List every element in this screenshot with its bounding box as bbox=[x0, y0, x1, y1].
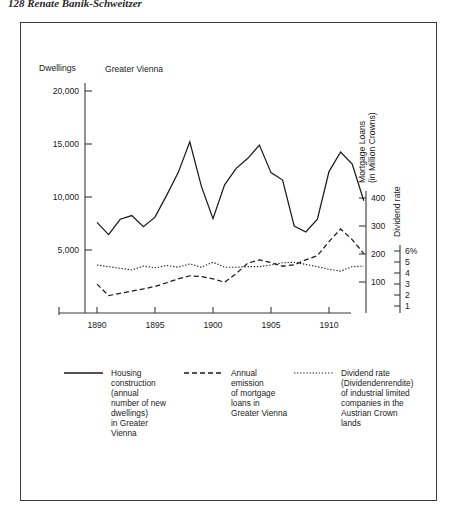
x-tick-label-1910: 1910 bbox=[319, 320, 338, 330]
legend-text-housing-line7: Vienna bbox=[111, 428, 137, 438]
dividend-tick-label-6: 6% bbox=[405, 246, 418, 256]
legend-item-housing-construction: Housing construction (annual number of n… bbox=[111, 368, 167, 438]
x-tick-label-1895: 1895 bbox=[145, 320, 164, 330]
dividend-tick-label-3: 3 bbox=[405, 279, 410, 289]
dividend-axis-ticks bbox=[394, 251, 400, 306]
running-head: 128 Renate Banik-Schweitzer bbox=[8, 0, 142, 9]
legend-text-housing-line1: Housing bbox=[111, 368, 142, 378]
left-tick-label-15000: 15,000 bbox=[53, 139, 80, 149]
left-tick-label-20000: 20,000 bbox=[53, 86, 80, 96]
mortgage-tick-label-100: 100 bbox=[371, 277, 386, 287]
dividend-tick-label-1: 1 bbox=[405, 301, 410, 311]
left-tick-label-5000: 5,000 bbox=[57, 245, 79, 255]
legend-text-housing-line3: (annual bbox=[111, 388, 139, 398]
legend: Housing construction (annual number of n… bbox=[64, 368, 414, 438]
mortgage-axis-title-line1: Mortgage Loans bbox=[357, 121, 367, 183]
x-tick-label-1905: 1905 bbox=[261, 320, 280, 330]
legend-item-mortgage-loans: Annual emission of mortgage loans in Gre… bbox=[231, 368, 288, 418]
x-axis-ticks bbox=[97, 307, 329, 313]
series-line-housing-construction bbox=[97, 142, 364, 235]
figure-page: 128 Renate Banik-Schweitzer 20,000 15,00… bbox=[0, 0, 457, 522]
mortgage-tick-label-200: 200 bbox=[371, 249, 386, 259]
legend-text-dividend-line4: companies in the bbox=[341, 398, 404, 408]
legend-text-dividend-line1: Dividend rate bbox=[341, 368, 390, 378]
legend-item-dividend-rate: Dividend rate (Dividendenrendite) of ind… bbox=[341, 368, 414, 428]
legend-text-mortgage-line4: loans in bbox=[231, 398, 260, 408]
left-axis-title: Dwellings bbox=[39, 63, 76, 73]
dividend-tick-label-4: 4 bbox=[405, 268, 410, 278]
legend-text-mortgage-line3: of mortgage bbox=[231, 388, 276, 398]
legend-text-housing-line5: dwellings) bbox=[111, 408, 148, 418]
left-tick-label-10000: 10,000 bbox=[53, 192, 80, 202]
legend-text-dividend-line6: lands bbox=[341, 418, 361, 428]
legend-text-dividend-line5: Austrian Crown bbox=[341, 408, 398, 418]
chart-svg: 20,000 15,000 10,000 5,000 Dwellings Gre… bbox=[21, 23, 434, 498]
mortgage-axis-title-line2: (in Million Crowns) bbox=[367, 112, 377, 183]
region-label: Greater Vienna bbox=[105, 64, 163, 74]
mortgage-tick-label-400: 400 bbox=[371, 193, 386, 203]
legend-text-mortgage-line2: emission bbox=[231, 378, 264, 388]
legend-text-mortgage-line1: Annual bbox=[231, 368, 257, 378]
figure-frame: 20,000 15,000 10,000 5,000 Dwellings Gre… bbox=[20, 22, 437, 501]
mortgage-tick-label-300: 300 bbox=[371, 221, 386, 231]
legend-text-dividend-line2: (Dividendenrendite) bbox=[341, 378, 414, 388]
legend-text-housing-line6: in Greater bbox=[111, 418, 148, 428]
legend-text-dividend-line3: of industrial limited bbox=[341, 388, 410, 398]
x-tick-label-1890: 1890 bbox=[87, 320, 106, 330]
dividend-tick-label-5: 5 bbox=[405, 257, 410, 267]
legend-text-mortgage-line5: Greater Vienna bbox=[231, 408, 288, 418]
x-tick-label-1900: 1900 bbox=[203, 320, 222, 330]
series-line-mortgage-loans bbox=[97, 229, 364, 296]
left-axis-ticks bbox=[85, 91, 92, 250]
dividend-axis-title: Dividend rate bbox=[392, 186, 402, 237]
dividend-tick-label-2: 2 bbox=[405, 290, 410, 300]
legend-text-housing-line2: construction bbox=[111, 378, 156, 388]
mortgage-axis-ticks bbox=[359, 198, 366, 282]
legend-text-housing-line4: number of new bbox=[111, 398, 167, 408]
series-line-dividend-rate bbox=[97, 262, 364, 271]
